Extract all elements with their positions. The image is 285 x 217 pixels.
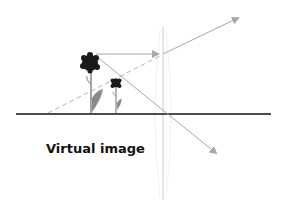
small-flower-head [111, 79, 122, 89]
lens-diagram [0, 0, 285, 217]
virtual-image-label: Virtual image [46, 141, 145, 156]
large-flower-leaf [92, 89, 103, 112]
small-flower-leaf [117, 99, 122, 110]
small-flower-object [111, 79, 123, 114]
large-flower-virtual-image [80, 52, 103, 113]
virtual-ray-extension [48, 56, 160, 113]
large-flower-head [80, 52, 100, 74]
parallel-ray-refracted [163, 18, 238, 54]
